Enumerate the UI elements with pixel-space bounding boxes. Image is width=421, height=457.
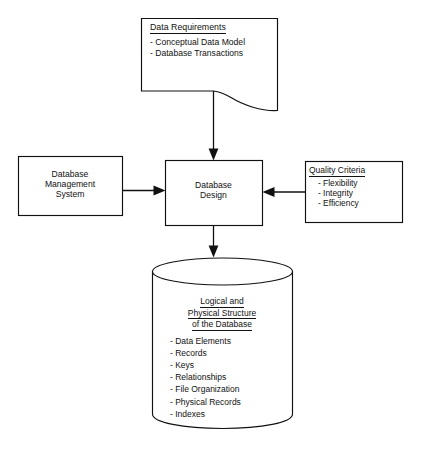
document-node-text: Data Requirements - Conceptual Data Mode… bbox=[150, 22, 274, 59]
database-design-diagram: Data Requirements - Conceptual Data Mode… bbox=[0, 0, 421, 457]
connector-criteria-to-design-arrowhead bbox=[263, 187, 275, 197]
database-node-item: - Records bbox=[170, 348, 288, 358]
document-node-title-row: Data Requirements bbox=[150, 22, 274, 37]
database-node-heading-row: Logical and bbox=[156, 296, 288, 308]
criteria-node-title: Quality Criteria bbox=[309, 165, 365, 177]
dbms-node-line: Database bbox=[19, 169, 121, 179]
design-node-line: Database bbox=[166, 180, 261, 190]
criteria-node-item: - Integrity bbox=[309, 189, 401, 199]
database-node-item: - Physical Records bbox=[170, 397, 288, 407]
database-node-item: - Indexes bbox=[170, 409, 288, 419]
database-node-text: Logical and Physical Structure of the Da… bbox=[156, 296, 288, 421]
dbms-node-text: Database Management System bbox=[19, 169, 121, 199]
database-node-item: - Keys bbox=[170, 360, 288, 370]
criteria-node-title-row: Quality Criteria bbox=[309, 165, 401, 179]
database-node-heading-row: Physical Structure bbox=[156, 308, 288, 320]
criteria-node-item: - Efficiency bbox=[309, 199, 401, 209]
document-node-title: Data Requirements bbox=[150, 22, 226, 34]
database-node-heading-line: Physical Structure bbox=[188, 308, 257, 320]
design-node-text: Database Design bbox=[166, 180, 261, 200]
cylinder-top-ellipse bbox=[153, 258, 293, 285]
database-node-item-list: - Data Elements - Records - Keys - Relat… bbox=[156, 336, 288, 419]
database-node-heading-row: of the Database bbox=[156, 319, 288, 331]
connector-dbms-to-design-arrowhead bbox=[154, 186, 166, 196]
criteria-node-text: Quality Criteria - Flexibility - Integri… bbox=[309, 165, 401, 210]
database-node-item: - Data Elements bbox=[170, 336, 288, 346]
criteria-node-item: - Flexibility bbox=[309, 179, 401, 189]
database-node-item: - File Organization bbox=[170, 384, 288, 394]
dbms-node-line: Management bbox=[19, 179, 121, 189]
document-node-item: - Conceptual Data Model bbox=[150, 37, 274, 47]
dbms-node-line: System bbox=[19, 189, 121, 199]
connector-document-to-design-arrowhead bbox=[209, 149, 219, 161]
database-node-heading-line: of the Database bbox=[192, 319, 252, 331]
design-node-line: Design bbox=[166, 190, 261, 200]
database-node-heading-line: Logical and bbox=[200, 296, 243, 308]
document-node-item: - Database Transactions bbox=[150, 48, 274, 58]
database-node-item: - Relationships bbox=[170, 372, 288, 382]
connector-design-to-database-arrowhead bbox=[209, 246, 219, 258]
